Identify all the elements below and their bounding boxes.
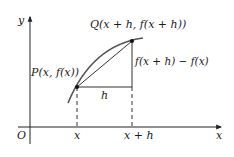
origin-label: O [17, 129, 26, 142]
point-q-label: Q(x + h, f(x + h)) [90, 18, 186, 31]
point-p-label: P(x, f(x)) [30, 66, 79, 79]
point-q [130, 39, 134, 43]
difference-label: f(x + h) − f(x) [134, 55, 209, 67]
y-axis-label: y [17, 14, 25, 27]
point-p [75, 85, 79, 89]
derivative-diagram: y x O P(x, f(x)) Q(x + h, f(x + h)) h f(… [0, 0, 234, 157]
tick-label-x-plus-h: x + h [124, 129, 154, 142]
tick-label-x: x [74, 129, 81, 142]
secant-line [77, 41, 132, 87]
h-label: h [101, 89, 108, 102]
x-axis-label: x [216, 129, 223, 142]
